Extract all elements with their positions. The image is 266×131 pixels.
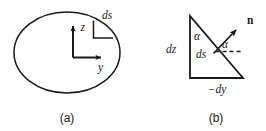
dz-label: dz xyxy=(166,43,177,55)
normal-vector-label: n xyxy=(247,14,254,26)
figure-root: z y ds (a) dz −dy ds n α α (b) xyxy=(0,0,266,131)
caption-panel-a: (a) xyxy=(60,111,75,125)
right-triangle xyxy=(190,16,243,78)
caption-panel-b: (b) xyxy=(209,111,224,125)
ds-label-panel-b: ds xyxy=(196,48,207,60)
z-axis-label: z xyxy=(80,21,86,33)
negative-dy-label: −dy xyxy=(208,83,228,96)
figure-canvas: z y ds (a) dz −dy ds n α α (b) xyxy=(0,0,266,131)
alpha-normal-label: α xyxy=(222,38,229,50)
y-axis-label: y xyxy=(97,61,104,74)
alpha-apex-label: α xyxy=(194,30,201,42)
ellipse-boundary xyxy=(14,12,120,93)
panel-b-group: dz −dy ds n α α (b) xyxy=(166,14,254,125)
ds-label-panel-a: ds xyxy=(102,9,113,21)
panel-a-group: z y ds (a) xyxy=(14,9,120,125)
